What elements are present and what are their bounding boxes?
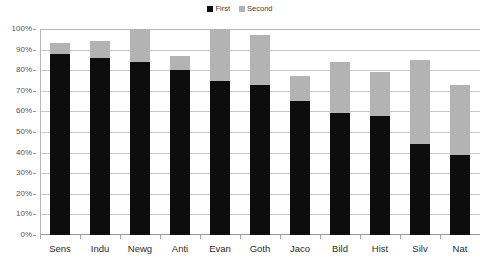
bar-segment-second[interactable] (170, 56, 190, 70)
y-axis-tick-label: 30% (16, 169, 32, 177)
y-axis-tick-mark (33, 111, 36, 112)
bar-segment-second[interactable] (90, 41, 110, 57)
x-axis-tick-mark (320, 235, 321, 239)
legend-entry[interactable]: Second (239, 5, 272, 13)
y-axis-tick-label: 90% (16, 46, 32, 54)
bar-group[interactable] (290, 29, 310, 235)
bar-segment-first[interactable] (250, 85, 270, 235)
bar-segment-second[interactable] (130, 29, 150, 62)
y-axis-tick-mark (33, 29, 36, 30)
legend-label: First (215, 5, 230, 13)
chart-legend: FirstSecond (0, 2, 480, 16)
bars-layer (40, 29, 480, 235)
bar-segment-first[interactable] (370, 116, 390, 235)
bar-segment-first[interactable] (330, 113, 350, 235)
bar-stack (370, 72, 390, 235)
x-axis: SensInduNewgAntiEvanGothJacoBildHistSilv… (40, 235, 480, 264)
bar-group[interactable] (450, 29, 470, 235)
x-axis-tick-mark (440, 235, 441, 239)
x-axis-tick-label: Sens (49, 244, 71, 254)
bar-group[interactable] (90, 29, 110, 235)
legend-entry[interactable]: First (207, 5, 230, 13)
x-axis-tick-mark (40, 235, 41, 239)
y-axis-tick-mark (33, 50, 36, 51)
x-axis-tick-mark (400, 235, 401, 239)
x-axis-tick-label: Jaco (290, 244, 310, 254)
legend-swatch-icon (239, 6, 245, 12)
x-axis-tick-mark (160, 235, 161, 239)
bar-stack (130, 29, 150, 235)
stacked-bar-chart: FirstSecond 0%10%20%30%40%50%60%70%80%90… (0, 0, 480, 264)
bar-group[interactable] (170, 29, 190, 235)
bar-stack (290, 76, 310, 235)
x-axis-tick-label: Hist (372, 244, 388, 254)
x-axis-tick-mark (200, 235, 201, 239)
x-axis-tick-mark (280, 235, 281, 239)
bar-stack (330, 62, 350, 235)
y-axis-tick-label: 0% (20, 231, 32, 239)
bar-stack (210, 29, 230, 235)
bar-segment-first[interactable] (290, 101, 310, 235)
x-axis-tick-mark (240, 235, 241, 239)
bar-segment-second[interactable] (50, 43, 70, 53)
bar-group[interactable] (370, 29, 390, 235)
bar-segment-first[interactable] (90, 58, 110, 235)
x-axis-tick-label: Goth (250, 244, 271, 254)
y-axis-tick-mark (33, 214, 36, 215)
y-axis-tick-label: 10% (16, 210, 32, 218)
bar-group[interactable] (410, 29, 430, 235)
bar-segment-second[interactable] (450, 85, 470, 155)
x-axis-tick-label: Nat (453, 244, 468, 254)
bar-stack (50, 43, 70, 235)
y-axis-tick-label: 100% (12, 25, 32, 33)
y-axis-tick-label: 50% (16, 128, 32, 136)
bar-segment-first[interactable] (210, 81, 230, 236)
y-axis-tick-label: 80% (16, 66, 32, 74)
bar-stack (250, 35, 270, 235)
x-axis-tick-label: Newg (128, 244, 152, 254)
bar-stack (170, 56, 190, 235)
x-axis-tick-label: Silv (412, 244, 427, 254)
y-axis-tick-mark (33, 235, 36, 236)
x-axis-tick-label: Evan (209, 244, 231, 254)
x-axis-tick-label: Bild (332, 244, 348, 254)
bar-segment-second[interactable] (250, 35, 270, 84)
bar-group[interactable] (330, 29, 350, 235)
y-axis-tick-mark (33, 91, 36, 92)
bar-segment-second[interactable] (330, 62, 350, 114)
bar-segment-second[interactable] (410, 60, 430, 144)
y-axis: 0%10%20%30%40%50%60%70%80%90%100% (0, 29, 36, 235)
bar-stack (450, 85, 470, 235)
legend-label: Second (247, 5, 272, 13)
bar-segment-second[interactable] (210, 29, 230, 81)
y-axis-tick-label: 20% (16, 190, 32, 198)
bar-segment-first[interactable] (130, 62, 150, 235)
y-axis-tick-mark (33, 173, 36, 174)
bar-segment-first[interactable] (170, 70, 190, 235)
bar-segment-first[interactable] (410, 144, 430, 235)
y-axis-tick-mark (33, 70, 36, 71)
bar-segment-first[interactable] (50, 54, 70, 235)
legend-swatch-icon (207, 6, 213, 12)
bar-segment-second[interactable] (370, 72, 390, 115)
bar-segment-second[interactable] (290, 76, 310, 101)
y-axis-tick-label: 70% (16, 87, 32, 95)
bar-stack (90, 41, 110, 235)
y-axis-tick-label: 40% (16, 149, 32, 157)
y-axis-tick-label: 60% (16, 107, 32, 115)
x-axis-tick-mark (120, 235, 121, 239)
bar-group[interactable] (130, 29, 150, 235)
bar-segment-first[interactable] (450, 155, 470, 235)
x-axis-tick-label: Anti (172, 244, 188, 254)
bar-stack (410, 60, 430, 235)
bar-group[interactable] (50, 29, 70, 235)
y-axis-tick-mark (33, 132, 36, 133)
x-axis-tick-mark (80, 235, 81, 239)
bar-group[interactable] (210, 29, 230, 235)
y-axis-tick-mark (33, 153, 36, 154)
bar-group[interactable] (250, 29, 270, 235)
x-axis-tick-mark (360, 235, 361, 239)
y-axis-tick-mark (33, 194, 36, 195)
x-axis-tick-label: Indu (91, 244, 110, 254)
